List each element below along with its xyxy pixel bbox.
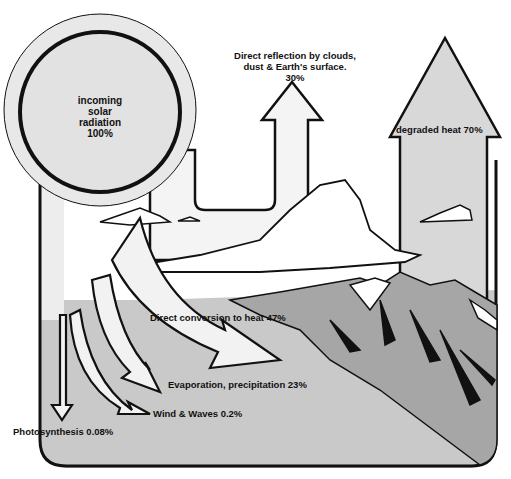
evaporation-label: Evaporation, precipitation 23% [168,379,307,390]
direct-conversion-label: Direct conversion to heat 47% [150,312,286,323]
sun-label-line: solar [58,106,142,117]
reflection-label-line: Direct reflection by clouds, [220,50,370,61]
degraded-heat-label: degraded heat 70% [396,124,483,135]
sun-label-line: incoming [58,95,142,106]
wind-waves-label: Wind & Waves 0.2% [153,408,242,419]
reflection-label-line: 30% [220,72,370,83]
reflection-label: Direct reflection by clouds, dust & Eart… [220,50,370,83]
sun-label: incoming solar radiation 100% [58,95,142,139]
sun-label-line: 100% [58,128,142,139]
reflection-label-line: dust & Earth's surface. [220,61,370,72]
sun-label-line: radiation [58,117,142,128]
photosynthesis-label: Photosynthesis 0.08% [13,426,113,437]
